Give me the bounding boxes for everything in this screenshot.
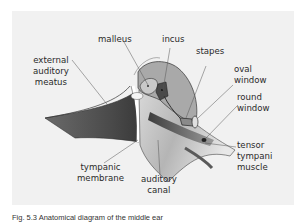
label-round-window: round window: [237, 92, 270, 114]
round-window-shape: [202, 138, 207, 142]
label-external-auditory-meatus: external auditory meatus: [33, 55, 69, 88]
label-malleus: malleus: [98, 34, 132, 45]
label-auditory-canal: auditory canal: [141, 174, 177, 196]
label-incus: incus: [162, 34, 184, 45]
label-oval-window: oval window: [234, 64, 267, 86]
label-tympanic-membrane: tympanic membrane: [77, 162, 124, 184]
label-tensor-tympani-muscle: tensor tympani muscle: [237, 140, 272, 173]
external-auditory-meatus-shape: [45, 86, 139, 142]
figure-caption: Fig. 5.3 Anatomical diagram of the middl…: [12, 213, 163, 222]
label-stapes: stapes: [196, 46, 224, 57]
